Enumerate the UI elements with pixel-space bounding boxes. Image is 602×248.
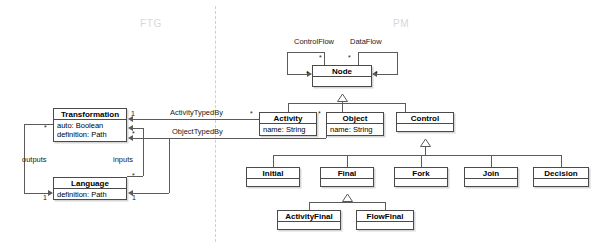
multiplicity-dataflow-lower: * bbox=[375, 70, 378, 77]
class-box-final[interactable]: Final bbox=[320, 167, 374, 187]
edge-inputs-top bbox=[132, 128, 143, 129]
class-title-activity: Activity bbox=[260, 113, 316, 124]
attr-transformation-definition: definition: Path bbox=[57, 130, 126, 139]
multiplicity-activity-end: * bbox=[250, 110, 253, 117]
multiplicity-outputs-star: * bbox=[44, 124, 47, 131]
class-box-initial[interactable]: Initial bbox=[246, 167, 300, 187]
zone-label-ftg: FTG bbox=[140, 18, 162, 29]
class-attrs-final bbox=[321, 179, 373, 188]
class-box-decision[interactable]: Decision bbox=[533, 167, 589, 187]
diagram-canvas: FTG PM bbox=[0, 0, 602, 248]
multiplicity-controlflow-upper: * bbox=[319, 54, 322, 61]
multiplicity-inputs-one: 1 bbox=[132, 194, 136, 201]
generalization-triangle-final bbox=[342, 188, 353, 206]
class-title-decision: Decision bbox=[534, 168, 588, 179]
association-label-activitytypedby: ActivityTypedBy bbox=[170, 108, 223, 117]
class-title-node: Node bbox=[313, 66, 371, 77]
triangle-control-svg bbox=[420, 139, 431, 147]
association-label-inputs: inputs bbox=[113, 155, 133, 164]
class-box-fork[interactable]: Fork bbox=[394, 167, 448, 187]
zone-divider bbox=[215, 6, 216, 242]
class-box-activity[interactable]: Activity name: String bbox=[259, 112, 317, 136]
class-title-final: Final bbox=[321, 168, 373, 179]
triangle-final-svg bbox=[342, 194, 353, 202]
multiplicity-dataflow-upper: * bbox=[348, 54, 351, 61]
class-attrs-fork bbox=[395, 179, 447, 188]
attr-activity-name: name: String bbox=[263, 125, 316, 134]
class-attrs-join bbox=[465, 179, 517, 188]
edge-control-gen-join bbox=[491, 155, 492, 167]
class-attrs-flowfinal bbox=[357, 222, 413, 231]
class-box-join[interactable]: Join bbox=[464, 167, 518, 187]
association-label-controlflow: ControlFlow bbox=[294, 37, 334, 46]
edge-dataflow-bottom bbox=[377, 74, 398, 75]
class-title-join: Join bbox=[465, 168, 517, 179]
edge-dataflow-right bbox=[397, 52, 398, 74]
class-title-control: Control bbox=[397, 113, 453, 124]
class-title-language: Language bbox=[54, 178, 126, 189]
multiplicity-transformation-one: 1 bbox=[131, 110, 135, 117]
edge-control-gen-initial bbox=[273, 155, 274, 167]
edge-control-gen-final bbox=[347, 155, 348, 167]
attr-transformation-auto: auto: Boolean bbox=[57, 121, 126, 130]
edge-control-gen-decision bbox=[561, 155, 562, 167]
edge-objecttypedby-leg-h bbox=[133, 193, 169, 194]
edge-controlflow-bottom bbox=[287, 74, 308, 75]
class-attrs-activity: name: String bbox=[260, 124, 316, 135]
class-attrs-transformation: auto: Boolean definition: Path bbox=[54, 120, 126, 140]
edge-outputs-top bbox=[24, 124, 53, 125]
edge-controlflow-right-down bbox=[324, 52, 325, 65]
generalization-triangle-control bbox=[420, 133, 431, 151]
multiplicity-controlflow-lower: * bbox=[306, 70, 309, 77]
class-box-transformation[interactable]: Transformation auto: Boolean definition:… bbox=[53, 108, 127, 142]
class-box-flowfinal[interactable]: FlowFinal bbox=[356, 210, 414, 230]
generalization-triangle-node bbox=[337, 88, 348, 106]
edge-node-gen-activity bbox=[288, 103, 289, 112]
class-attrs-node bbox=[313, 77, 371, 86]
edge-dataflow-top bbox=[358, 52, 398, 53]
edge-inputs-bottom bbox=[127, 176, 143, 177]
class-title-object: Object bbox=[327, 113, 383, 124]
edge-node-gen-control bbox=[405, 103, 406, 112]
zone-label-pm: PM bbox=[393, 18, 409, 29]
class-title-initial: Initial bbox=[247, 168, 299, 179]
edge-controlflow-left bbox=[287, 52, 288, 74]
edge-final-gen-flowfinal bbox=[385, 202, 386, 210]
multiplicity-inputs-star: * bbox=[132, 172, 135, 179]
attr-language-definition: definition: Path bbox=[57, 190, 126, 199]
edge-objecttypedby-run bbox=[133, 138, 326, 139]
class-box-language[interactable]: Language definition: Path bbox=[53, 177, 127, 200]
class-title-activityfinal: ActivityFinal bbox=[278, 211, 340, 222]
class-attrs-decision bbox=[534, 179, 588, 188]
class-attrs-initial bbox=[247, 179, 299, 188]
edge-control-gen-fork bbox=[421, 155, 422, 167]
edge-control-gen-bus bbox=[273, 155, 561, 156]
class-attrs-object: name: String bbox=[327, 124, 383, 135]
edge-objecttypedby-leg-v bbox=[169, 138, 170, 193]
class-title-flowfinal: FlowFinal bbox=[357, 211, 413, 222]
class-box-control[interactable]: Control bbox=[396, 112, 454, 132]
class-title-fork: Fork bbox=[395, 168, 447, 179]
association-label-objecttypedby: ObjectTypedBy bbox=[172, 127, 223, 136]
class-box-node[interactable]: Node bbox=[312, 65, 372, 87]
class-title-transformation: Transformation bbox=[54, 109, 126, 120]
edge-final-gen-activityfinal bbox=[309, 202, 310, 210]
multiplicity-outputs-one: 1 bbox=[43, 194, 47, 201]
class-attrs-control bbox=[397, 124, 453, 133]
attr-object-name: name: String bbox=[330, 125, 383, 134]
edge-inputs-vertical bbox=[143, 128, 144, 176]
edge-dataflow-left-down bbox=[358, 52, 359, 65]
class-box-activityfinal[interactable]: ActivityFinal bbox=[277, 210, 341, 230]
triangle-node-svg bbox=[337, 94, 348, 102]
multiplicity-transformation-star: * bbox=[132, 130, 135, 137]
edge-controlflow-top bbox=[287, 52, 325, 53]
association-label-dataflow: DataFlow bbox=[350, 37, 382, 46]
multiplicity-object-end: * bbox=[318, 110, 321, 117]
class-attrs-language: definition: Path bbox=[54, 189, 126, 200]
edge-activitytypedby bbox=[133, 119, 259, 120]
class-attrs-activityfinal bbox=[278, 222, 340, 231]
association-label-outputs: outputs bbox=[22, 155, 47, 164]
class-box-object[interactable]: Object name: String bbox=[326, 112, 384, 136]
